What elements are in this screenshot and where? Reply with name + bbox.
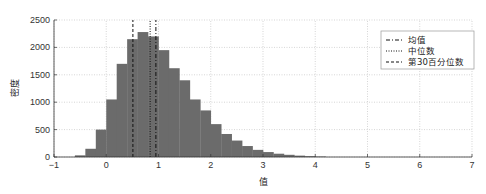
y-axis-label: 密度 [9,79,20,97]
legend-label: 均值 [408,35,426,45]
y-tick-label: 500 [35,125,50,135]
y-tick-label: 0 [45,152,50,162]
y-tick-label: 2500 [30,15,50,25]
histogram-bar [179,80,190,157]
histogram-bar [159,50,170,157]
histogram-bar [232,141,243,157]
histogram-bar [138,32,149,157]
x-tick-label: −1 [49,160,59,170]
histogram-bar [263,152,274,157]
legend: 均值中位数第30百分位数 [381,31,474,69]
x-tick-label: 4 [313,160,318,170]
histogram-bar [273,154,284,157]
x-tick-label: 5 [365,160,370,170]
legend-label: 第30百分位数 [408,57,464,67]
histogram-bar [169,68,180,157]
x-tick-label: 7 [469,160,474,170]
x-tick-label: 0 [104,160,109,170]
y-tick-label: 1500 [30,70,50,80]
histogram-bar [221,134,232,157]
x-tick-label: 3 [260,160,265,170]
histogram-bar [253,150,264,157]
histogram-bar [85,149,96,157]
x-tick-label: 2 [208,160,213,170]
histogram-bar [242,146,253,157]
histogram-bar [106,99,117,157]
x-axis-label: 值 [259,176,268,187]
x-tick-label: 6 [417,160,422,170]
y-tick-label: 2000 [30,42,50,52]
histogram-bar [117,64,128,157]
histogram-bars [75,32,326,157]
x-tick-label: 1 [156,160,161,170]
histogram-bar [200,110,211,157]
y-tick-label: 1000 [30,97,50,107]
histogram-bar [211,124,222,157]
histogram-bar [96,130,107,157]
histogram-chart: −10123456705001000150020002500 值 密度 均值中位… [0,0,486,194]
legend-label: 中位数 [408,46,435,56]
histogram-bar [190,99,201,157]
